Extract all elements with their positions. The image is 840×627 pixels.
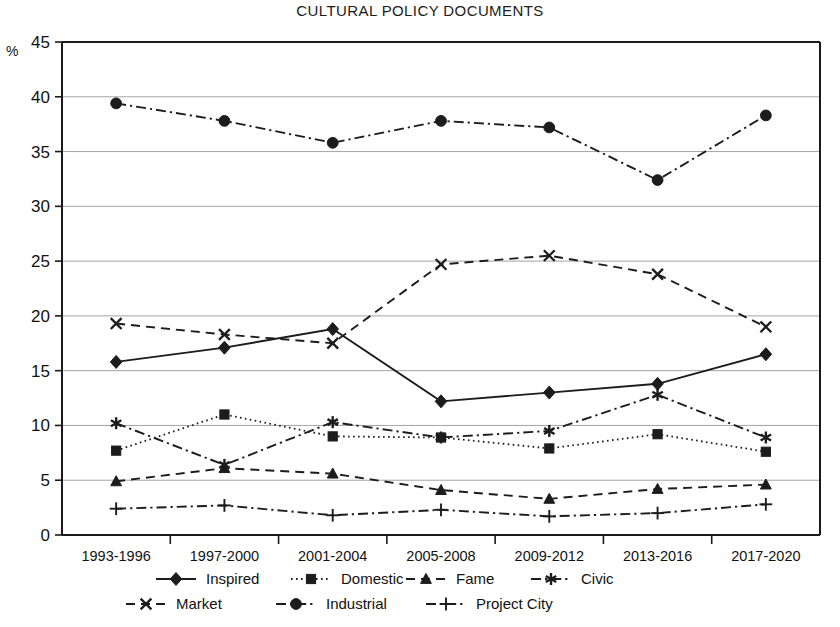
x-axis-tick-labels: 1993-19961997-20002001-20042005-20082009…: [81, 548, 800, 564]
y-axis-tick-labels: 051015202530354045: [31, 33, 50, 545]
y-tick-label-45: 45: [31, 33, 50, 52]
series-inspired: [110, 323, 771, 408]
datapoint-domestic-1997-2000: [220, 410, 229, 419]
series-line-inspired: [116, 329, 766, 401]
datapoint-domestic-1993-1996: [112, 446, 121, 455]
legend-item-fame[interactable]: Fame: [406, 570, 494, 587]
datapoint-market-2017-2020: [760, 321, 771, 332]
legend-label-inspired: Inspired: [206, 570, 259, 587]
legend-item-market[interactable]: Market: [126, 595, 223, 612]
legend-marker-domestic-icon: [306, 574, 315, 583]
legend-marker-inspired-icon: [170, 573, 182, 586]
x-tick-label-2005-2008: 2005-2008: [406, 548, 475, 564]
chart-container: CULTURAL POLICY DOCUMENTS 05101520253035…: [0, 0, 840, 627]
legend-label-project-city: Project City: [476, 595, 553, 612]
datapoint-domestic-2017-2020: [761, 447, 770, 456]
x-tick-label-1997-2000: 1997-2000: [190, 548, 259, 564]
x-tick-label-2009-2012: 2009-2012: [515, 548, 584, 564]
legend-marker-industrial-icon: [291, 599, 302, 610]
x-tick-label-2001-2004: 2001-2004: [298, 548, 367, 564]
series-market: [111, 250, 772, 348]
y-tick-label-25: 25: [31, 252, 50, 271]
y-tick-label-40: 40: [31, 88, 50, 107]
series-group: [110, 98, 773, 523]
legend-label-market: Market: [176, 595, 223, 612]
datapoint-project-city-2017-2020: [759, 498, 772, 511]
datapoint-project-city-1997-2000: [218, 499, 231, 512]
datapoint-domestic-2009-2012: [545, 444, 554, 453]
datapoint-civic-2017-2020: [761, 431, 771, 443]
datapoint-project-city-2013-2016: [651, 507, 664, 520]
datapoint-inspired-2001-2004: [327, 323, 339, 336]
legend-item-industrial[interactable]: Industrial: [276, 595, 387, 612]
legend-group: InspiredDomesticFameCivicMarketIndustria…: [126, 570, 614, 612]
datapoint-inspired-2009-2012: [543, 386, 555, 399]
datapoint-civic-2013-2016: [652, 389, 662, 401]
datapoint-industrial-2009-2012: [544, 122, 555, 133]
y-tick-label-35: 35: [31, 143, 50, 162]
chart-svg: 051015202530354045 1993-19961997-2000200…: [0, 0, 840, 627]
datapoint-inspired-2013-2016: [652, 377, 664, 390]
x-tick-label-2013-2016: 2013-2016: [623, 548, 692, 564]
datapoint-inspired-2005-2008: [435, 395, 447, 408]
datapoint-market-2013-2016: [652, 269, 663, 280]
y-tick-label-20: 20: [31, 307, 50, 326]
legend-label-domestic: Domestic: [341, 570, 404, 587]
series-project-city: [110, 498, 773, 523]
gridlines-group: [62, 42, 820, 480]
datapoint-industrial-2005-2008: [436, 115, 447, 126]
y-tick-label-5: 5: [41, 471, 50, 490]
datapoint-industrial-1993-1996: [111, 98, 122, 109]
datapoint-project-city-2009-2012: [543, 510, 556, 523]
y-axis-unit-label: %: [6, 43, 18, 59]
y-tick-label-10: 10: [31, 416, 50, 435]
series-line-market: [116, 256, 766, 344]
datapoint-industrial-2013-2016: [652, 175, 663, 186]
legend-item-domestic[interactable]: Domestic: [291, 570, 404, 587]
y-tick-label-30: 30: [31, 197, 50, 216]
datapoint-domestic-2013-2016: [653, 430, 662, 439]
legend-item-project-city[interactable]: Project City: [426, 595, 553, 612]
y-tick-label-0: 0: [41, 526, 50, 545]
legend-item-inspired[interactable]: Inspired: [156, 570, 259, 587]
y-tick-label-15: 15: [31, 362, 50, 381]
series-line-industrial: [116, 103, 766, 180]
datapoint-industrial-2017-2020: [760, 110, 771, 121]
legend-item-civic[interactable]: Civic: [531, 570, 614, 587]
datapoint-civic-1993-1996: [111, 417, 121, 429]
datapoint-project-city-2001-2004: [326, 509, 339, 522]
datapoint-civic-2001-2004: [328, 416, 338, 428]
datapoint-domestic-2001-2004: [328, 432, 337, 441]
legend-label-industrial: Industrial: [326, 595, 387, 612]
datapoint-inspired-2017-2020: [760, 348, 772, 361]
legend-label-fame: Fame: [456, 570, 494, 587]
datapoint-industrial-2001-2004: [327, 137, 338, 148]
datapoint-project-city-2005-2008: [435, 503, 448, 516]
datapoint-industrial-1997-2000: [219, 115, 230, 126]
datapoint-project-city-1993-1996: [110, 502, 123, 515]
legend-marker-project-city-icon: [440, 598, 453, 611]
datapoint-inspired-1993-1996: [110, 355, 122, 368]
legend-label-civic: Civic: [581, 570, 614, 587]
series-industrial: [111, 98, 772, 185]
datapoint-market-2005-2008: [436, 259, 447, 270]
datapoint-inspired-1997-2000: [219, 341, 231, 354]
series-fame: [111, 463, 772, 504]
x-tick-label-2017-2020: 2017-2020: [731, 548, 800, 564]
x-tick-label-1993-1996: 1993-1996: [81, 548, 150, 564]
